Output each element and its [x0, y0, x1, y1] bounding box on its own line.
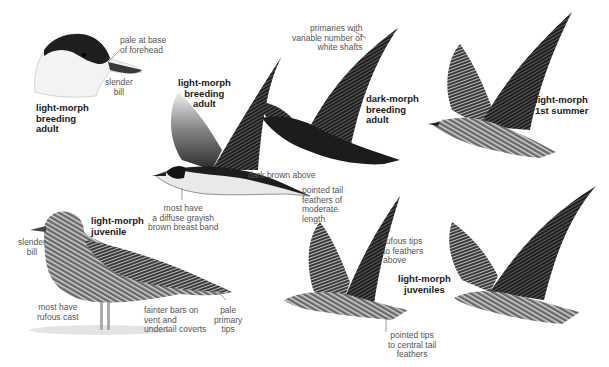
- annotation-pointed-central-tail: pointed tips to central tail feathers: [388, 331, 436, 360]
- annotation-dark-brown-above: dark brown above: [248, 171, 316, 181]
- annotation-pale-forehead: pale at base of forehead: [120, 36, 166, 55]
- title-dark-breeding-adult: dark-morph breeding adult: [366, 94, 419, 126]
- annotation-pointed-tail-moderate: pointed tail feathers of moderate length: [302, 186, 343, 224]
- bird-illustrations: [0, 0, 609, 367]
- title-juveniles-flight: light-morph juveniles: [398, 274, 451, 295]
- annotation-juvenile-slender-bill: slender bill: [18, 238, 46, 257]
- annotation-rufous-cast: most have rufous cast: [37, 303, 79, 322]
- illustration-plate: pale at base of forehead slender bill li…: [0, 0, 609, 367]
- annotation-breast-band: most have a diffuse grayish brown breast…: [148, 204, 218, 233]
- title-light-breeding-adult-flight: light-morph breeding adult: [178, 78, 231, 110]
- title-first-summer: light-morph 1st summer: [535, 95, 588, 116]
- annotation-fainter-bars: fainter bars on vent and undertail cover…: [144, 306, 206, 335]
- title-head-light-breeding-adult: light-morph breeding adult: [36, 103, 89, 135]
- annotation-pale-primary-tips: pale primary tips: [214, 306, 242, 335]
- annotation-slender-bill: slender bill: [105, 78, 133, 97]
- juvenile-flight-2-illustration: [449, 186, 596, 324]
- first-summer-illustration: [428, 12, 572, 158]
- annotation-white-shafts: primaries with variable number of white …: [292, 24, 362, 53]
- title-juvenile: light-morph juvenile: [91, 216, 144, 237]
- annotation-rufous-tips: rufous tips to feathers above: [383, 237, 423, 266]
